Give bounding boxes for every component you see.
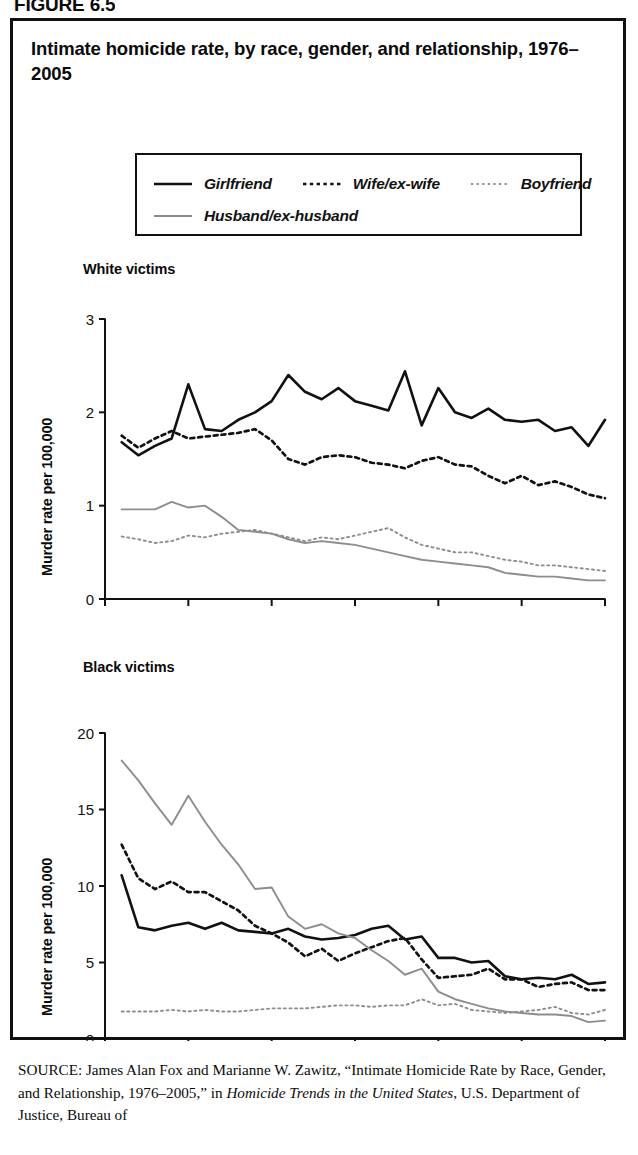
series-line-boyfriend <box>122 528 605 571</box>
series-line-boyfriend <box>122 999 605 1014</box>
legend-row-1: Girlfriend Wife/ex-wife Boyfriend <box>153 175 591 193</box>
legend-entry-girlfriend: Girlfriend <box>153 175 272 193</box>
legend-label-boyfriend: Boyfriend <box>521 175 592 193</box>
legend-swatch-husband-icon <box>153 209 193 223</box>
panel-heading-black-victims: Black victims <box>83 659 174 675</box>
y-tick-label: 15 <box>77 801 94 818</box>
figure-box: Intimate homicide rate, by race, gender,… <box>10 18 626 1040</box>
y-tick-label: 2 <box>86 404 94 421</box>
series-line-girlfriend <box>122 371 605 455</box>
y-tick-label: 20 <box>77 725 94 742</box>
legend-swatch-girlfriend-icon <box>153 177 193 191</box>
legend-swatch-boyfriend-icon <box>470 177 510 191</box>
y-tick-label: 0 <box>86 1031 94 1042</box>
figure-label: FIGURE 6.5 <box>14 0 115 14</box>
y-tick-label: 1 <box>86 497 94 514</box>
y-axis-title-white: Murder rate per 100,000 <box>39 418 55 576</box>
chart-white-victims: 01231975198019851990199520002005 <box>57 279 613 609</box>
page-title: Intimate homicide rate, by race, gender,… <box>31 36 591 86</box>
series-line-wife-ex-wife <box>122 845 605 990</box>
source-note: SOURCE: James Alan Fox and Marianne W. Z… <box>18 1059 626 1127</box>
legend-entry-boyfriend: Boyfriend <box>470 175 592 193</box>
y-axis-title-black: Murder rate per 100,000 <box>39 858 55 1016</box>
source-italic-1: Homicide Trends in the United States <box>226 1084 453 1101</box>
y-tick-label: 10 <box>77 878 94 895</box>
chart-black-victims: 051015201975198019851990199520002005 <box>57 681 613 1041</box>
source-kicker: SOURCE: <box>18 1061 82 1078</box>
legend-label-girlfriend: Girlfriend <box>204 175 272 193</box>
panel-heading-white-victims: White victims <box>83 261 175 277</box>
chart-legend: Girlfriend Wife/ex-wife Boyfriend Hus <box>135 153 582 236</box>
y-tick-label: 5 <box>86 954 94 971</box>
y-tick-label: 0 <box>86 591 94 608</box>
legend-label-husband: Husband/ex-husband <box>204 207 358 225</box>
series-line-wife-ex-wife <box>122 429 605 498</box>
legend-swatch-wife-icon <box>302 177 342 191</box>
y-tick-label: 3 <box>86 311 94 328</box>
series-line-husband-ex-husband <box>122 502 605 580</box>
legend-entry-wife: Wife/ex-wife <box>302 175 440 193</box>
legend-entry-husband: Husband/ex-husband <box>153 207 358 225</box>
legend-row-2: Husband/ex-husband <box>153 207 358 225</box>
legend-label-wife: Wife/ex-wife <box>353 175 440 193</box>
